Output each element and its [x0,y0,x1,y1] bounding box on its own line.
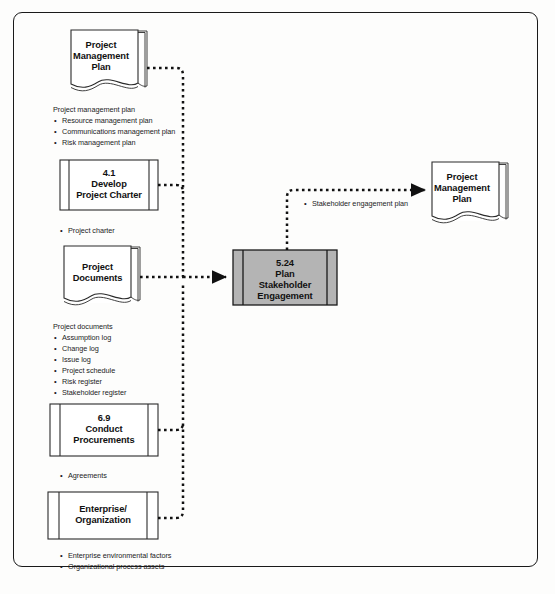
input-shape-develop-project-charter [60,160,158,210]
note-item: Stakeholder engagement plan [303,198,408,209]
note-heading: Project documents [53,321,126,332]
input-shape-conduct-procurements [50,404,158,456]
note-item: Assumption log [53,332,126,343]
note-project-charter: Project charter [53,225,115,236]
note-item: Stakeholder register [53,387,126,398]
connector-charter-to-trunk [158,185,183,192]
input-shape-enterprise-organization [48,492,158,539]
note-item: Project schedule [53,365,126,376]
input-shape-project-documents [64,246,140,305]
note-item: Resource management plan [53,115,175,126]
note-item: Enterprise environmental factors [59,550,171,561]
note-project-documents: Project documents Assumption log Change … [53,321,126,399]
note-project-management-plan: Project management plan Resource managem… [53,104,175,148]
note-item: Issue log [53,354,126,365]
note-list: Agreements [53,470,107,481]
note-item: Agreements [59,470,107,481]
note-list: Project charter [53,225,115,236]
connector-enterprise-to-trunk [158,285,183,518]
note-item: Change log [53,343,126,354]
note-item: Organizational process assets [59,561,171,572]
note-list: Resource management plan Communications … [53,115,175,148]
note-list: Stakeholder engagement plan [297,198,408,209]
note-item: Communications management plan [53,126,175,137]
note-list: Assumption log Change log Issue log Proj… [53,332,126,398]
diagram-page: Project Management Plan 4.1 Develop Proj… [0,0,555,594]
note-agreements: Agreements [53,470,107,481]
input-shape-project-management-plan [71,30,147,91]
note-item: Risk register [53,376,126,387]
process-shape-plan-stakeholder-engagement [233,250,337,305]
connector-procurements-to-trunk [158,423,183,430]
diagram-vector-layer [0,0,555,594]
note-list: Enterprise environmental factors Organiz… [53,550,171,572]
note-item: Project charter [59,225,115,236]
output-shape-project-management-plan [432,162,508,223]
note-item: Risk management plan [53,137,175,148]
note-stakeholder-engagement-plan: Stakeholder engagement plan [297,198,408,209]
note-heading: Project management plan [53,104,175,115]
note-enterprise-organization: Enterprise environmental factors Organiz… [53,550,171,572]
